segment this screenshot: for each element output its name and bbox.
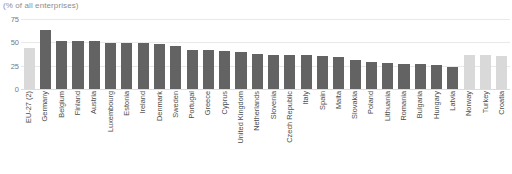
y-axis-tick-50: 50 [1, 38, 19, 47]
bar [447, 67, 458, 89]
category-label: Bulgaria [412, 91, 428, 174]
bar [252, 54, 263, 89]
category-label: Sweden [168, 91, 184, 174]
bar [317, 56, 328, 89]
gridline-0 [21, 89, 510, 90]
x-axis-category-labels: EU-27 (2)GermanyBelgiumFinlandAustriaLux… [21, 91, 510, 174]
bar [464, 55, 475, 89]
category-label-text: Slovenia [270, 91, 277, 119]
category-label: Germany [37, 91, 53, 174]
bar [496, 56, 507, 89]
y-axis-tick-25: 25 [1, 61, 19, 70]
category-label-text: Germany [42, 91, 49, 121]
bar [366, 62, 377, 89]
bar-slot [282, 14, 298, 89]
category-label: Cyprus [217, 91, 233, 174]
category-label: Malta [331, 91, 347, 174]
category-label: Romania [396, 91, 412, 174]
bar-slot [396, 14, 412, 89]
category-label: Austria [86, 91, 102, 174]
y-axis: 0255075 [0, 14, 19, 89]
bar [138, 43, 149, 89]
bar-slot [21, 14, 37, 89]
bar-slot [445, 14, 461, 89]
category-label-text: Austria [91, 91, 98, 114]
category-label-text: Hungary [433, 91, 440, 119]
bar-slot [184, 14, 200, 89]
y-axis-tick-0: 0 [1, 85, 19, 94]
bar-slot [412, 14, 428, 89]
bar-slot [461, 14, 477, 89]
bar-slot [119, 14, 135, 89]
category-label-text: Portugal [188, 91, 195, 119]
category-label-text: Spain [319, 91, 326, 110]
bar [382, 63, 393, 89]
category-label-text: Latvia [449, 91, 456, 111]
category-label: EU-27 (2) [21, 91, 37, 174]
bar-slot [347, 14, 363, 89]
bar-slot [429, 14, 445, 89]
category-label-text: Lithuania [384, 91, 391, 121]
bar-chart: (% of all enterprises) 0255075 EU-27 (2)… [0, 0, 512, 174]
bar-slot [477, 14, 493, 89]
category-label-text: Czech Republic [286, 91, 293, 143]
bar [121, 43, 132, 89]
bar-slot [200, 14, 216, 89]
bar-slot [249, 14, 265, 89]
category-label: Italy [298, 91, 314, 174]
bar [415, 64, 426, 89]
bar-slot [380, 14, 396, 89]
bar-slot [70, 14, 86, 89]
bar [154, 44, 165, 89]
category-label-text: Italy [303, 91, 310, 105]
bar [480, 55, 491, 89]
bar [89, 41, 100, 89]
category-label-text: Luxembourg [107, 91, 114, 132]
category-label-text: Sweden [172, 91, 179, 118]
category-label-text: Romania [400, 91, 407, 121]
bar [56, 41, 67, 89]
category-label-text: Netherlands [254, 91, 261, 131]
bar [333, 57, 344, 89]
category-label-text: Estonia [123, 91, 130, 116]
bar [219, 51, 230, 89]
bar [398, 64, 409, 89]
bar-slot [135, 14, 151, 89]
bar-series [21, 14, 510, 89]
bar [431, 65, 442, 89]
category-label-text: Bulgaria [417, 91, 424, 118]
category-label: Ireland [135, 91, 151, 174]
bar-slot [314, 14, 330, 89]
category-label: Netherlands [249, 91, 265, 174]
category-label-text: Turkey [482, 91, 489, 113]
category-label-text: United Kingdom [237, 91, 244, 144]
category-label-text: Finland [74, 91, 81, 115]
bar [187, 50, 198, 89]
bar-slot [103, 14, 119, 89]
category-label-text: Slovakia [351, 91, 358, 119]
category-label-text: Denmark [156, 91, 163, 121]
category-label-text: Belgium [58, 91, 65, 118]
bar-slot [331, 14, 347, 89]
category-label: Spain [314, 91, 330, 174]
bar [40, 30, 51, 89]
category-label: Belgium [54, 91, 70, 174]
category-label: Luxembourg [103, 91, 119, 174]
category-label-text: Norway [466, 91, 473, 116]
category-label-text: Croatia [498, 91, 505, 115]
bar-slot [86, 14, 102, 89]
bar-slot [233, 14, 249, 89]
category-label: Slovakia [347, 91, 363, 174]
bar [203, 50, 214, 89]
category-label: Denmark [151, 91, 167, 174]
category-label: Poland [363, 91, 379, 174]
bar-slot [494, 14, 510, 89]
bar-slot [54, 14, 70, 89]
category-label: Estonia [119, 91, 135, 174]
bar-slot [37, 14, 53, 89]
chart-subtitle: (% of all enterprises) [3, 1, 79, 10]
category-label: United Kingdom [233, 91, 249, 174]
bar-slot [363, 14, 379, 89]
category-label: Hungary [429, 91, 445, 174]
bar [170, 46, 181, 89]
